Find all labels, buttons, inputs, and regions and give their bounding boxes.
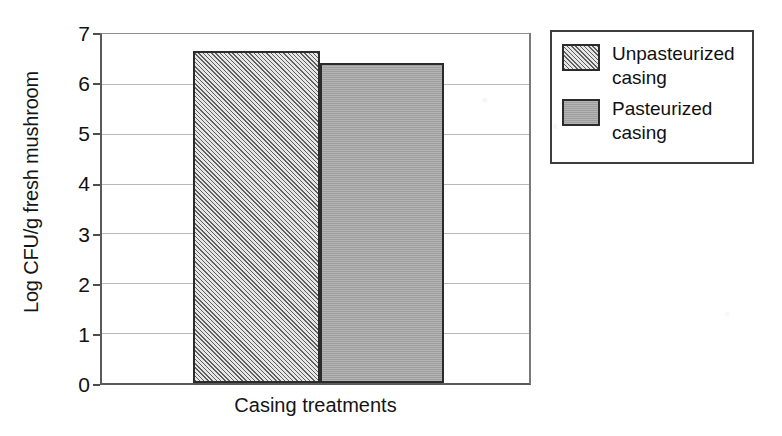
y-tick-label-1: 1 (56, 324, 90, 345)
y-tick-label-6: 6 (56, 73, 90, 94)
bar-chart-figure: Log CFU/g fresh mushroom 7 6 5 4 3 2 1 0… (0, 0, 782, 436)
y-tick-label-3: 3 (56, 224, 90, 245)
chart-legend: Unpasteurizedcasing Pasteurizedcasing (550, 30, 754, 164)
legend-item-unpasteurized-casing: Unpasteurizedcasing (562, 42, 752, 90)
y-axis-title-text: Log CFU/g fresh mushroom (14, 22, 48, 362)
y-tick-mark-5 (93, 133, 100, 135)
plot-area (100, 33, 531, 385)
y-tick-mark-7 (93, 33, 100, 35)
y-tick-mark-0 (93, 384, 100, 386)
y-axis-title: Log CFU/g fresh mushroom (14, 0, 48, 30)
legend-label-line2: casing (612, 122, 667, 143)
legend-swatch-hatched-icon (562, 44, 600, 71)
y-axis-tick-labels: 7 6 5 4 3 2 1 0 (50, 0, 90, 436)
bar-pasteurized-casing (320, 63, 444, 383)
y-tick-mark-3 (93, 234, 100, 236)
legend-label-unpasteurized-casing: Unpasteurizedcasing (612, 42, 735, 90)
y-tick-label-7: 7 (56, 23, 90, 44)
y-tick-mark-4 (93, 184, 100, 186)
legend-label-line1: Pasteurized (612, 98, 712, 119)
bar-unpasteurized-casing (193, 51, 320, 383)
legend-label-pasteurized-casing: Pasteurizedcasing (612, 97, 712, 145)
x-axis-title: Casing treatments (100, 392, 531, 418)
y-tick-label-4: 4 (56, 173, 90, 194)
legend-label-line1: Unpasteurized (612, 43, 735, 64)
y-tick-mark-6 (93, 83, 100, 85)
y-tick-label-5: 5 (56, 123, 90, 144)
legend-swatch-solid-icon (562, 99, 600, 126)
legend-item-pasteurized-casing: Pasteurizedcasing (562, 97, 752, 145)
y-tick-label-0: 0 (56, 374, 90, 395)
y-tick-mark-1 (93, 334, 100, 336)
y-tick-mark-2 (93, 284, 100, 286)
y-tick-label-2: 2 (56, 274, 90, 295)
legend-label-line2: casing (612, 67, 667, 88)
